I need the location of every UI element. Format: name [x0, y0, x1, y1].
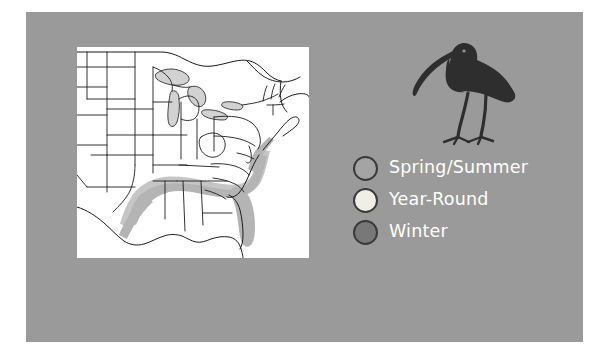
- range-map-card: [77, 47, 309, 258]
- legend-item-spring-summer[interactable]: Spring/Summer: [353, 152, 583, 184]
- figure-root: Spring/Summer Year-Round Winter: [0, 0, 608, 358]
- state-border-pa-md: [214, 136, 255, 146]
- legend-swatch-year-round: [353, 188, 378, 213]
- ibis-silhouette: [404, 38, 516, 152]
- lake-michigan: [168, 91, 180, 127]
- state-border-mi-upper: [173, 85, 190, 87]
- ibis-front-foot: [444, 137, 469, 144]
- legend-label-spring-summer: Spring/Summer: [389, 159, 528, 177]
- state-border-va-nc: [211, 164, 249, 175]
- state-border-ky-tn: [179, 165, 219, 167]
- legend-item-year-round[interactable]: Year-Round: [353, 184, 583, 216]
- ibis-back-foot: [468, 137, 493, 144]
- ibis-front-leg: [458, 93, 468, 137]
- state-border-ny-north: [242, 94, 278, 105]
- legend-label-winter: Winter: [389, 223, 448, 241]
- st-lawrence-outline: [247, 61, 300, 82]
- new-england-coastline: [280, 94, 309, 102]
- state-border-ny-vt: [263, 86, 267, 101]
- lake-superior: [155, 69, 189, 85]
- state-border-ma-ct: [267, 104, 284, 105]
- legend-label-year-round: Year-Round: [389, 191, 489, 209]
- legend-item-winter[interactable]: Winter: [353, 216, 583, 248]
- legend-swatch-winter: [353, 220, 378, 245]
- range-map-svg: [77, 47, 309, 258]
- gulf-atlantic-coastline: [77, 207, 243, 258]
- ibis-silhouette-svg: [404, 38, 516, 152]
- lake-erie: [202, 110, 228, 120]
- gray-background-panel: Spring/Summer Year-Round Winter: [26, 12, 583, 342]
- ibis-back-leg: [481, 94, 486, 137]
- state-border-h9: [77, 175, 87, 187]
- legend-swatch-spring-summer: [353, 156, 378, 181]
- ibis-eye: [462, 50, 466, 53]
- maine-coastline: [280, 81, 287, 112]
- state-border-mi-lower: [179, 96, 199, 121]
- state-border-md-de: [246, 146, 251, 163]
- lake-ontario: [222, 102, 243, 110]
- range-legend: Spring/Summer Year-Round Winter: [353, 152, 583, 248]
